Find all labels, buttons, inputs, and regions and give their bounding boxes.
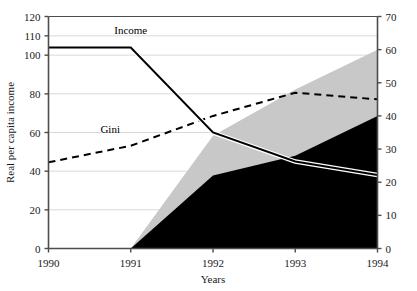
tick-label-right: 60 — [386, 44, 398, 56]
tick-label-right: 50 — [386, 77, 398, 89]
income-label: Income — [114, 24, 147, 36]
tick-label-x: 1994 — [367, 257, 390, 269]
tick-label-x: 1993 — [284, 257, 307, 269]
tick-label-x: 1992 — [202, 257, 224, 269]
tick-label-left: 100 — [24, 49, 41, 61]
tick-label-left: 120 — [24, 11, 41, 23]
chart-plot: 0204060801001101200102030405060701990199… — [0, 0, 417, 291]
tick-label-x: 1990 — [38, 257, 61, 269]
tick-label-left: 40 — [30, 165, 42, 177]
tick-label-x: 1991 — [120, 257, 142, 269]
tick-label-right: 20 — [386, 176, 398, 188]
chart-container: 0204060801001101200102030405060701990199… — [0, 0, 417, 291]
tick-label-left: 60 — [30, 127, 42, 139]
tick-label-right: 30 — [386, 143, 398, 155]
gini-label: Gini — [100, 123, 120, 135]
tick-label-left: 110 — [24, 30, 41, 42]
tick-label-left: 0 — [35, 243, 41, 255]
tick-label-right: 40 — [386, 110, 398, 122]
y-axis-title: Real per capita income — [4, 82, 16, 183]
tick-label-left: 80 — [30, 88, 42, 100]
tick-label-left: 20 — [30, 204, 42, 216]
tick-label-right: 0 — [386, 243, 392, 255]
x-axis-title: Years — [201, 273, 226, 285]
tick-label-right: 10 — [386, 209, 398, 221]
tick-label-right: 70 — [386, 11, 398, 23]
